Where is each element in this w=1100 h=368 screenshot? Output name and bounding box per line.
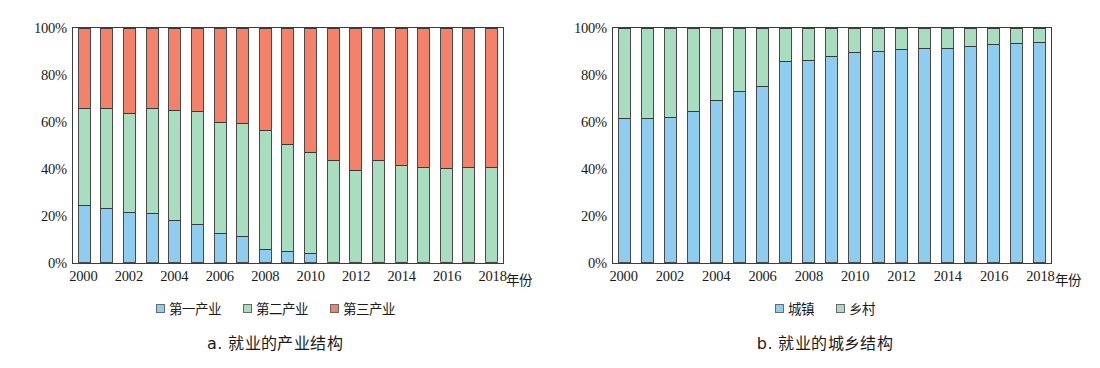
bar-segment — [78, 28, 91, 108]
bar-segment — [100, 28, 113, 108]
bar-2016 — [987, 28, 1000, 263]
bar-segment — [918, 48, 931, 263]
bar-segment — [281, 251, 294, 263]
x-axis-tick-blank — [733, 268, 746, 290]
x-axis-tick-blank — [463, 268, 476, 290]
bar-segment — [327, 160, 340, 261]
x-axis-tick-2014: 2014 — [941, 268, 954, 290]
bar-2007 — [779, 28, 792, 263]
legend-a: 第一产业第二产业第三产业 — [0, 298, 550, 318]
x-axis-tick-2012: 2012 — [895, 268, 908, 290]
bar-segment — [327, 261, 340, 263]
bar-segment — [687, 111, 700, 264]
bar-2016 — [440, 28, 453, 263]
plot-area-b: 0%20%40%60%80%100% — [612, 27, 1052, 264]
x-axis-tick-2008: 2008 — [259, 268, 272, 290]
bar-segment — [664, 28, 677, 117]
x-axis-tick-blank — [825, 268, 838, 290]
bar-2015 — [964, 28, 977, 263]
bar-segment — [1033, 28, 1046, 42]
x-axis-labels-b: 2000200220042006200820102012201420162018 — [612, 268, 1052, 290]
bar-segment — [349, 28, 362, 170]
bar-segment — [191, 111, 204, 224]
legend-swatch-icon — [330, 304, 339, 313]
bar-segment — [259, 130, 272, 249]
x-axis-tick-2008: 2008 — [802, 268, 815, 290]
x-axis-unit-a: 年份 — [506, 269, 532, 289]
x-axis-tick-blank — [281, 268, 294, 290]
bar-segment — [710, 28, 723, 100]
x-axis-tick-2002: 2002 — [663, 268, 676, 290]
bar-segment — [304, 152, 317, 253]
bar-segment — [236, 28, 249, 123]
bar-segment — [895, 28, 908, 49]
bar-segment — [78, 108, 91, 205]
legend-label: 乡村 — [849, 298, 875, 318]
x-axis-tick-2016: 2016 — [441, 268, 454, 290]
legend-item[interactable]: 第一产业 — [156, 298, 221, 318]
legend-item[interactable]: 第三产业 — [330, 298, 395, 318]
y-axis-tick: 20% — [41, 208, 67, 225]
bar-segment — [664, 117, 677, 263]
bar-segment — [417, 28, 430, 167]
bar-2011 — [327, 28, 340, 263]
bar-segment — [123, 28, 136, 113]
bar-segment — [214, 233, 227, 263]
bar-2013 — [372, 28, 385, 263]
bar-group-a — [73, 28, 503, 263]
x-axis-tick-blank — [100, 268, 113, 290]
x-axis-tick-blank — [236, 268, 249, 290]
bar-segment — [848, 28, 861, 52]
bar-segment — [214, 28, 227, 122]
x-axis-tick-2000: 2000 — [77, 268, 90, 290]
bar-segment — [1033, 42, 1046, 263]
bar-segment — [281, 144, 294, 250]
bar-segment — [304, 28, 317, 152]
x-axis-tick-2006: 2006 — [213, 268, 226, 290]
bar-segment — [485, 28, 498, 167]
bar-segment — [146, 213, 159, 263]
legend-item[interactable]: 城镇 — [775, 298, 814, 318]
bar-2010 — [848, 28, 861, 263]
bar-segment — [987, 28, 1000, 44]
x-axis-tick-blank — [779, 268, 792, 290]
bar-segment — [802, 60, 815, 264]
bar-2015 — [417, 28, 430, 263]
bar-segment — [123, 113, 136, 212]
bar-segment — [710, 100, 723, 263]
bar-2009 — [281, 28, 294, 263]
bar-2001 — [641, 28, 654, 263]
bar-segment — [191, 28, 204, 111]
bar-segment — [417, 167, 430, 261]
bar-segment — [395, 261, 408, 263]
bar-2002 — [664, 28, 677, 263]
bar-segment — [779, 28, 792, 61]
bar-2014 — [395, 28, 408, 263]
bar-2003 — [146, 28, 159, 263]
bar-segment — [618, 28, 631, 118]
legend-label: 第二产业 — [256, 298, 308, 318]
legend-item[interactable]: 第二产业 — [243, 298, 308, 318]
bar-2005 — [191, 28, 204, 263]
bar-segment — [964, 46, 977, 263]
x-axis-tick-2018: 2018 — [486, 268, 499, 290]
bar-2009 — [825, 28, 838, 263]
legend-item[interactable]: 乡村 — [836, 298, 875, 318]
bar-2012 — [349, 28, 362, 263]
bar-segment — [485, 167, 498, 261]
bar-segment — [168, 220, 181, 263]
legend-label: 城镇 — [788, 298, 814, 318]
bar-segment — [756, 28, 769, 86]
y-axis-tick: 40% — [581, 161, 607, 178]
bar-2018 — [485, 28, 498, 263]
bar-segment — [417, 261, 430, 263]
y-axis-tick: 60% — [581, 114, 607, 131]
bar-segment — [802, 28, 815, 59]
bar-segment — [146, 108, 159, 213]
bar-segment — [825, 56, 838, 263]
bar-segment — [168, 110, 181, 220]
bar-segment — [641, 28, 654, 118]
bar-segment — [440, 261, 453, 263]
bar-group-b — [613, 28, 1051, 263]
y-axis-tick: 80% — [581, 67, 607, 84]
